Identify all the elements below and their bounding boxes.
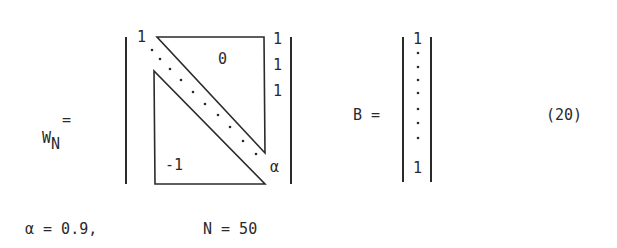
equation-number: (20) (546, 108, 582, 123)
w-top-left-entry: 1 (137, 30, 146, 45)
w-bottom-right-alpha: α (270, 160, 279, 175)
matrix-graphics (0, 0, 617, 248)
b-vertical-dots (417, 52, 420, 140)
b-vector-label: B = (353, 108, 380, 123)
w-lower-minus-one: -1 (165, 158, 183, 173)
b-top-entry: 1 (413, 32, 422, 47)
diagonal-dots (151, 49, 258, 156)
w-last-col-1: 1 (273, 32, 282, 47)
b-bottom-entry: 1 (413, 161, 422, 176)
upper-triangle (157, 37, 265, 153)
n-parameter: N = 50 (203, 222, 257, 237)
w-upper-zero: 0 (218, 52, 227, 67)
alpha-parameter: α = 0.9, (25, 222, 97, 237)
w-last-col-2: 1 (273, 58, 282, 73)
w-last-col-3: 1 (273, 84, 282, 99)
